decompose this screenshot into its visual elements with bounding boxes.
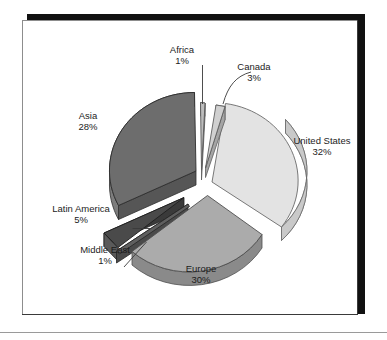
pie-label-africa-pct: 1% — [152, 55, 212, 66]
pie-label-asia-pct: 28% — [62, 121, 114, 132]
pie-label-latin-america-pct: 5% — [37, 214, 125, 225]
pie-label-middle-east: Middle East 1% — [65, 244, 145, 266]
pie-label-middle-east-pct: 1% — [65, 255, 145, 266]
pie-label-europe-name: Europe — [186, 263, 217, 274]
pie-label-europe: Europe 30% — [171, 263, 231, 285]
pie-slice-africa[interactable] — [201, 103, 206, 181]
pie-label-europe-pct: 30% — [171, 274, 231, 285]
pie-label-africa-name: Africa — [170, 44, 194, 55]
pie-label-united-states: United States 32% — [276, 135, 368, 157]
pie-label-asia-name: Asia — [79, 110, 97, 121]
page-divider-rule — [0, 332, 387, 333]
pie-label-asia: Asia 28% — [62, 110, 114, 132]
pie-label-africa: Africa 1% — [152, 44, 212, 66]
figure-root: Africa 1% Canada 3% United States 32% Eu… — [0, 0, 387, 340]
pie-label-latin-america: Latin America 5% — [37, 203, 125, 225]
pie-label-latin-america-name: Latin America — [52, 203, 110, 214]
pie-label-canada-name: Canada — [237, 61, 270, 72]
pie-label-united-states-name: United States — [293, 135, 350, 146]
pie-label-canada-pct: 3% — [224, 72, 284, 83]
pie-label-middle-east-name: Middle East — [80, 244, 130, 255]
pie-label-canada: Canada 3% — [224, 61, 284, 83]
frame-shadow-right — [358, 14, 365, 314]
pie-label-united-states-pct: 32% — [276, 146, 368, 157]
